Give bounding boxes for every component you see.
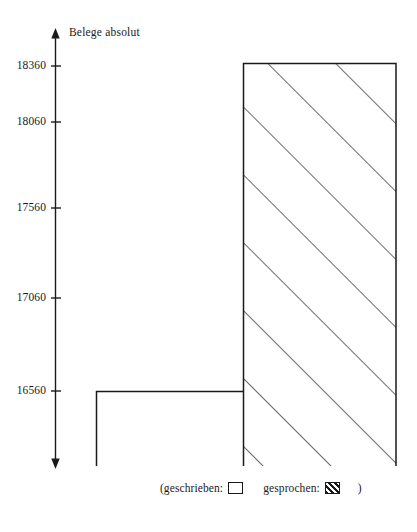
chart-canvas (0, 0, 417, 532)
chart-figure: Belege absolut 18360 18060 17560 17060 1… (0, 0, 417, 532)
y-axis-arrow-down (51, 459, 59, 470)
empty-square-icon (228, 482, 243, 494)
bar-geschrieben (97, 392, 244, 467)
y-axis-title: Belege absolut (69, 26, 140, 38)
legend-label-gesprochen: gesprochen: (263, 482, 320, 494)
y-axis-arrow-up (51, 28, 59, 39)
y-axis (51, 28, 59, 469)
legend-label-geschrieben: geschrieben: (164, 482, 223, 494)
bar-gesprochen (244, 64, 397, 467)
y-tick-label-18060: 18060 (0, 115, 46, 127)
y-tick-label-16560: 16560 (0, 384, 46, 396)
legend-close-paren: ) (358, 482, 362, 494)
legend: ( geschrieben: gesprochen: ) (160, 482, 362, 494)
y-tick-label-17560: 17560 (0, 201, 46, 213)
y-tick-label-17060: 17060 (0, 291, 46, 303)
hatched-square-icon (325, 482, 340, 494)
y-tick-label-18360: 18360 (0, 59, 46, 71)
